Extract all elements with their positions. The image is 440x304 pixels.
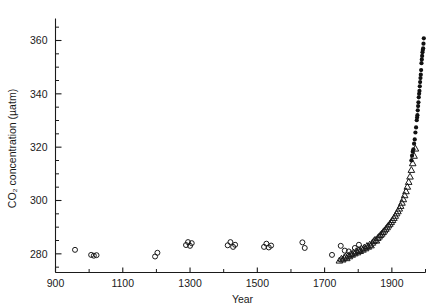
data-point-filled-circle: [421, 46, 425, 50]
y-tick-label: 360: [30, 34, 48, 46]
data-point-open-circle: [300, 240, 305, 245]
series-triangle-open: [336, 145, 419, 263]
y-axis-tick-labels: 280300320340360: [30, 34, 48, 259]
svg-text:CO₂ concentration (µatm): CO₂ concentration (µatm): [6, 89, 18, 208]
data-point-open-circle: [338, 243, 343, 248]
y-axis-ticks: [56, 27, 62, 267]
data-point-open-triangle: [407, 173, 414, 179]
data-point-filled-circle: [417, 89, 421, 93]
data-point-open-triangle: [408, 167, 415, 173]
y-tick-label: 300: [30, 194, 48, 206]
co2-concentration-chart: 280300320340360 90011001300150017001900 …: [0, 0, 440, 304]
data-point-filled-circle: [420, 54, 424, 58]
data-point-open-circle: [228, 240, 233, 245]
data-point-filled-circle: [416, 100, 420, 104]
data-point-filled-circle: [412, 142, 416, 146]
x-axis-ticks: [56, 268, 426, 273]
data-point-filled-circle: [415, 113, 419, 117]
data-point-filled-circle: [411, 147, 415, 151]
data-point-filled-circle: [422, 36, 426, 40]
data-point-filled-circle: [410, 154, 414, 158]
data-point-filled-circle: [409, 158, 413, 162]
data-point-open-circle: [329, 252, 334, 257]
x-tick-label: 1300: [178, 277, 202, 289]
data-point-filled-circle: [419, 73, 423, 77]
data-point-filled-circle: [418, 80, 422, 84]
x-axis-tick-labels: 90011001300150017001900: [47, 277, 404, 289]
x-tick-label: 1900: [380, 277, 404, 289]
x-tick-label: 1700: [313, 277, 337, 289]
y-tick-label: 340: [30, 88, 48, 100]
data-point-filled-circle: [418, 84, 422, 88]
x-axis-title: Year: [232, 293, 254, 304]
data-point-open-triangle: [401, 192, 408, 198]
data-point-filled-circle: [413, 137, 417, 141]
data-point-filled-circle: [416, 104, 420, 108]
series-circle-filled: [409, 36, 426, 162]
data-point-filled-circle: [416, 108, 420, 112]
x-tick-label: 1100: [111, 277, 134, 289]
data-point-filled-circle: [421, 42, 425, 46]
data-point-open-circle: [155, 250, 160, 255]
data-point-filled-circle: [419, 61, 423, 65]
series-circle-open: [73, 240, 362, 259]
data-point-open-circle: [73, 247, 78, 252]
data-point-filled-circle: [414, 125, 418, 129]
data-point-open-circle: [302, 245, 307, 250]
axes-layer: [56, 19, 426, 273]
y-tick-label: 320: [30, 141, 48, 153]
y-tick-label: 280: [30, 248, 48, 260]
chart-canvas: 280300320340360 90011001300150017001900 …: [0, 0, 440, 304]
x-tick-label: 1500: [246, 277, 270, 289]
y-axis-title: CO₂ concentration (µatm): [6, 89, 18, 208]
data-point-filled-circle: [413, 130, 417, 134]
data-point-filled-circle: [419, 68, 423, 72]
x-tick-label: 900: [47, 277, 65, 289]
data-markers-layer: [73, 36, 426, 263]
data-point-open-circle: [225, 243, 230, 248]
